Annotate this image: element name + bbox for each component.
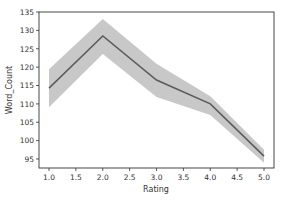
y-tick-label: 135 (20, 8, 35, 17)
x-tick-label: 5.0 (258, 173, 270, 182)
x-tick-label: 1.5 (70, 173, 82, 182)
x-axis-label: Rating (143, 185, 169, 194)
chart-svg: 95100105110115120125130135 1.01.52.02.53… (0, 0, 282, 200)
x-tick-label: 3.0 (151, 173, 163, 182)
y-tick-label: 95 (24, 155, 34, 164)
x-tick-label: 2.5 (124, 173, 136, 182)
y-tick-label: 125 (20, 45, 35, 54)
x-tick-label: 2.0 (97, 173, 109, 182)
y-axis-label: Word_Count (5, 66, 14, 114)
x-tick-label: 1.0 (43, 173, 55, 182)
line-chart: 95100105110115120125130135 1.01.52.02.53… (0, 0, 282, 200)
x-tick-label: 4.0 (204, 173, 216, 182)
x-tick-label: 3.5 (177, 173, 189, 182)
confidence-band (49, 19, 264, 163)
y-tick-label: 100 (20, 136, 35, 145)
ci-band (49, 19, 264, 163)
x-axis-ticks: 1.01.52.02.53.03.54.04.55.0 (43, 168, 270, 182)
y-axis-ticks: 95100105110115120125130135 (20, 8, 39, 164)
y-tick-label: 115 (20, 81, 35, 90)
x-tick-label: 4.5 (231, 173, 243, 182)
y-tick-label: 120 (20, 63, 35, 72)
y-tick-label: 130 (20, 26, 35, 35)
y-tick-label: 105 (20, 118, 35, 127)
y-tick-label: 110 (20, 100, 35, 109)
